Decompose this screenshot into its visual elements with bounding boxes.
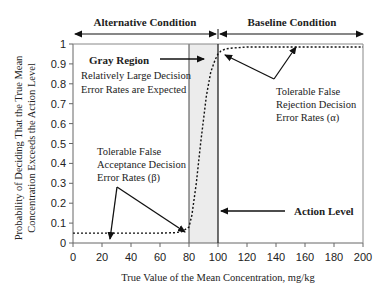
- x-tick-label: 200: [354, 251, 372, 263]
- baseline-condition-label: Baseline Condition: [248, 16, 337, 28]
- x-axis-title: True Value of the Mean Concentration, mg…: [121, 272, 315, 283]
- y-axis-ticks: 00.10.20.30.40.50.60.70.80.91: [51, 38, 73, 249]
- y-tick-label: 0.9: [51, 58, 66, 70]
- false-rejection-line-3: Error Rates (α): [276, 112, 340, 124]
- false-rejection-line-2: Rejection Decision: [276, 99, 357, 110]
- y-axis-title-line-2: Concentration Exceeds the Action Level: [26, 63, 37, 233]
- x-tick-label: 100: [209, 251, 227, 263]
- y-tick-label: 1: [60, 38, 66, 50]
- gray-region: [189, 44, 218, 243]
- x-tick-label: 80: [183, 251, 195, 263]
- y-tick-label: 0.2: [51, 197, 66, 209]
- false-acceptance-line-2: Acceptance Decision: [97, 159, 187, 170]
- y-tick-label: 0.6: [51, 118, 66, 130]
- x-axis-ticks: 020406080100120140160180200: [70, 243, 372, 263]
- condition-header: Alternative Condition Baseline Condition: [75, 16, 363, 39]
- false-acceptance-arrow-2: [117, 187, 185, 232]
- gray-region-desc-line-1: Relatively Large Decision: [81, 70, 192, 81]
- x-tick-label: 140: [267, 251, 285, 263]
- y-tick-label: 0.5: [51, 138, 66, 150]
- false-rejection-arrow-2: [274, 47, 296, 79]
- y-tick-label: 0.4: [51, 157, 66, 169]
- false-rejection-arrow-1: [225, 55, 274, 79]
- y-tick-label: 0: [60, 237, 66, 249]
- gray-region-desc-line-2: Error Rates are Expected: [81, 84, 187, 95]
- false-acceptance-line-1: Tolerable False: [97, 146, 162, 157]
- x-tick-label: 0: [70, 251, 76, 263]
- x-tick-label: 160: [296, 251, 314, 263]
- x-tick-label: 120: [238, 251, 256, 263]
- x-tick-label: 60: [154, 251, 166, 263]
- y-tick-label: 0.8: [51, 78, 66, 90]
- y-tick-label: 0.3: [51, 177, 66, 189]
- alternative-condition-label: Alternative Condition: [94, 16, 197, 28]
- x-tick-label: 20: [96, 251, 108, 263]
- y-axis-title: Probability of Deciding That the True Me…: [13, 55, 37, 240]
- gray-region-title: Gray Region: [89, 54, 149, 66]
- y-tick-label: 0.1: [51, 217, 66, 229]
- false-acceptance-line-3: Error Rates (β): [97, 172, 161, 184]
- y-axis-title-line-1: Probability of Deciding That the True Me…: [13, 55, 24, 240]
- y-tick-label: 0.7: [51, 98, 66, 110]
- false-rejection-line-1: Tolerable False: [276, 86, 341, 97]
- false-acceptance-arrow-1: [110, 187, 117, 239]
- decision-performance-chart: Alternative Condition Baseline Condition…: [0, 0, 389, 303]
- x-tick-label: 40: [125, 251, 137, 263]
- action-level-label: Action Level: [294, 205, 354, 217]
- x-tick-label: 180: [325, 251, 343, 263]
